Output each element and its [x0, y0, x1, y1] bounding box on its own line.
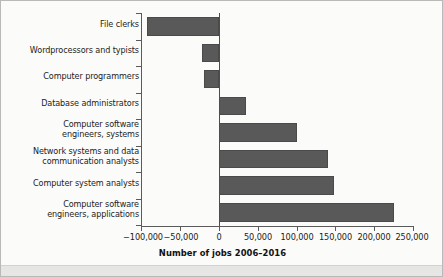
- x-axis-tick: [141, 226, 142, 231]
- x-axis-tick: [219, 226, 220, 231]
- x-axis-tick: [180, 226, 181, 231]
- bar-chart-plot-area: File clerks Wordprocessors and typists C…: [1, 1, 443, 261]
- x-axis-tick: [413, 226, 414, 231]
- y-axis-spine: [141, 13, 142, 226]
- figure-bottom-strip: [1, 265, 443, 276]
- bar-file-clerks: [147, 17, 219, 36]
- zero-baseline: [219, 13, 220, 226]
- bar-computer-programmers: [204, 70, 219, 88]
- x-axis-tick: [335, 226, 336, 231]
- x-axis-tick-label: −100,000: [123, 232, 163, 242]
- x-axis-tick: [374, 226, 375, 231]
- bar-computer-software-engineers-applications: [219, 203, 394, 222]
- bar-computer-software-engineers-systems: [219, 123, 297, 142]
- x-axis-tick-label: 150,000: [319, 232, 352, 242]
- x-axis-tick: [258, 226, 259, 231]
- x-axis-tick-label: −50,000: [164, 232, 199, 242]
- x-axis-spine: [141, 226, 413, 227]
- x-axis-tick: [297, 226, 298, 231]
- x-axis-tick-label: 50,000: [244, 232, 272, 242]
- bar-computer-system-analysts: [219, 176, 334, 195]
- bar-network-systems-and-data-communication-analysts: [219, 150, 328, 168]
- x-axis-title: Number of jobs 2006–2016: [1, 248, 443, 258]
- x-axis-tick-label: 0: [216, 232, 221, 242]
- x-axis-tick-label: 200,000: [357, 232, 390, 242]
- bar-series: [1, 1, 443, 226]
- chart-figure: File clerks Wordprocessors and typists C…: [0, 0, 443, 277]
- x-axis-tick-label: 100,000: [280, 232, 313, 242]
- bar-database-administrators: [219, 97, 246, 115]
- bar-wordprocessors-and-typists: [202, 44, 219, 62]
- x-axis-tick-label: 250,000: [395, 232, 428, 242]
